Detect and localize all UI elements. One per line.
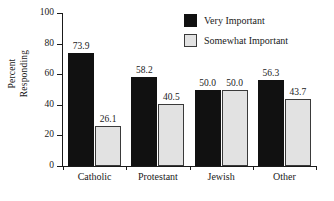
bar-value-label: 56.3: [252, 68, 290, 78]
bar-value-label: 58.2: [125, 65, 163, 75]
y-axis-tick: [57, 135, 62, 136]
y-axis-tick-label: 100: [34, 8, 54, 18]
y-axis-tick: [57, 166, 62, 167]
legend-item-very-important: Very Important: [184, 11, 288, 29]
legend-label-somewhat-important: Somewhat Important: [204, 35, 288, 46]
x-axis-category-label: Jewish: [190, 171, 253, 183]
legend: Very Important Somewhat Important: [184, 11, 288, 51]
x-axis-category-label: Other: [253, 171, 316, 183]
y-axis-title-line1: Percent: [7, 59, 17, 89]
x-axis-category-label: Catholic: [63, 171, 126, 183]
bar: [68, 53, 94, 166]
x-axis-tick: [190, 166, 191, 170]
y-axis-tick: [57, 13, 62, 14]
bar-value-label: 43.7: [279, 87, 317, 97]
bar: [158, 104, 184, 166]
y-axis-tick-label: 0: [34, 161, 54, 171]
y-axis-tick-label: 80: [34, 39, 54, 49]
y-axis-title-line2: Responding: [18, 24, 30, 124]
y-axis-tick-label: 60: [34, 69, 54, 79]
bar: [131, 77, 157, 166]
bar: [222, 90, 248, 167]
legend-label-very-important: Very Important: [204, 15, 265, 26]
x-axis-tick: [316, 166, 317, 170]
bar-value-label: 50.0: [216, 78, 254, 88]
bar: [95, 126, 121, 166]
bar: [195, 90, 221, 167]
bar-value-label: 73.9: [62, 41, 100, 51]
x-axis-category-label: Protestant: [126, 171, 189, 183]
y-axis-title: Percent Responding: [7, 24, 30, 124]
black-square-swatch-icon: [184, 14, 197, 27]
y-axis-tick: [57, 105, 62, 106]
x-axis-tick: [126, 166, 127, 170]
y-axis-tick: [57, 74, 62, 75]
legend-item-somewhat-important: Somewhat Important: [184, 31, 288, 49]
y-axis-tick-label: 20: [34, 130, 54, 140]
y-axis-tick-label: 40: [34, 100, 54, 110]
bar-chart: Percent Responding 020406080100 73.926.1…: [0, 0, 334, 201]
x-axis-tick: [253, 166, 254, 170]
gray-square-swatch-icon: [184, 34, 197, 47]
bar: [285, 99, 311, 166]
bar-value-label: 26.1: [89, 114, 127, 124]
bar-value-label: 40.5: [152, 92, 190, 102]
x-axis-tick: [63, 166, 64, 170]
